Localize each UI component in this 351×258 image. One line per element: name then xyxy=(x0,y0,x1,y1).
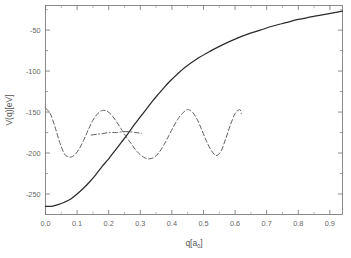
chart-plot: 0.00.10.20.30.40.50.60.70.80.9 -50-100-1… xyxy=(0,0,351,258)
x-axis-tick-labels: 0.00.10.20.30.40.50.60.70.80.9 xyxy=(40,219,335,228)
x-tick-label: 0.4 xyxy=(167,219,177,228)
x-tick-label: 0.0 xyxy=(40,219,50,228)
x-tick-label: 0.7 xyxy=(262,219,272,228)
y-axis-title: V(q)[eV] xyxy=(4,94,14,125)
y-axis-ticks xyxy=(46,10,343,215)
x-tick-label: 0.2 xyxy=(104,219,114,228)
y-tick-label: -150 xyxy=(26,108,41,117)
curve-dashed-oscillatory xyxy=(46,108,242,159)
y-tick-label: -200 xyxy=(26,149,41,158)
x-tick-label: 0.9 xyxy=(325,219,335,228)
x-tick-label: 0.8 xyxy=(293,219,303,228)
x-tick-label: 0.1 xyxy=(72,219,82,228)
curve-dashdot-flat xyxy=(91,132,142,135)
x-tick-label: 0.5 xyxy=(198,219,208,228)
plot-frame xyxy=(46,6,343,215)
y-tick-label: -250 xyxy=(26,190,41,199)
curve-solid-potential xyxy=(46,11,343,206)
x-axis-title: q[a0] xyxy=(185,238,202,249)
x-tick-label: 0.3 xyxy=(135,219,145,228)
x-tick-label: 0.6 xyxy=(230,219,240,228)
figure-container: 0.00.10.20.30.40.50.60.70.80.9 -50-100-1… xyxy=(0,0,351,258)
data-curves xyxy=(46,11,343,206)
y-axis-tick-labels: -50-100-150-200-250 xyxy=(26,26,41,199)
y-tick-label: -50 xyxy=(30,26,41,35)
y-tick-label: -100 xyxy=(26,67,41,76)
